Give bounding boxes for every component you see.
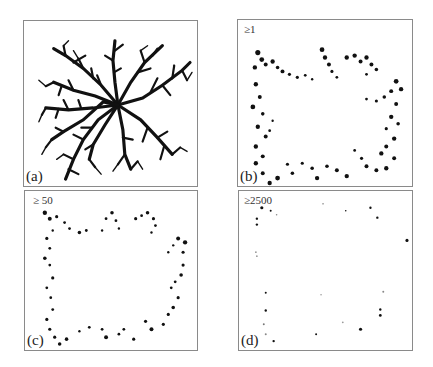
panel-a: (a) (23, 20, 198, 187)
threshold-label-d: ≥2500 (244, 194, 272, 206)
panel-b: ≥1 (b) (237, 19, 413, 187)
panel-label-d: (d) (241, 332, 259, 349)
panel-label-a: (a) (26, 168, 43, 185)
perimeter-sites-image (25, 191, 197, 350)
branching-cluster-image (24, 21, 197, 186)
perimeter-sites-image (238, 20, 412, 186)
panel-d: ≥2500 (d) (238, 190, 413, 351)
panel-c: ≥ 50 (c) (24, 190, 198, 351)
panel-label-c: (c) (27, 332, 44, 349)
panel-label-b: (b) (240, 168, 258, 185)
threshold-label-b: ≥1 (244, 23, 256, 35)
sparse-sites-image (239, 191, 412, 350)
threshold-label-c: ≥ 50 (33, 194, 53, 206)
